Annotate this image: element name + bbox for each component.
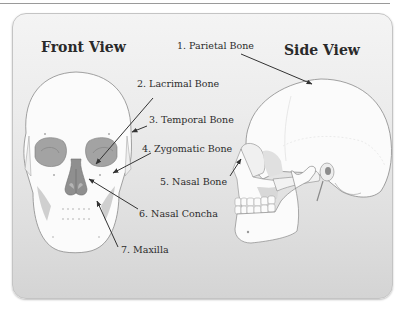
label-nasal-bone: 5. Nasal Bone: [160, 176, 227, 187]
diagram-panel: Front View Side View 1. Parietal Bone 2.…: [12, 13, 393, 299]
front-skull-icon: [24, 72, 132, 253]
label-lacrimal-bone: 2. Lacrimal Bone: [137, 78, 219, 89]
arrow-temporal: [132, 126, 147, 132]
label-temporal-bone: 3. Temporal Bone: [149, 114, 234, 125]
side-skull-icon: [233, 79, 392, 243]
label-parietal-bone: 1. Parietal Bone: [177, 40, 254, 51]
label-zygomatic-bone: 4. Zygomatic Bone: [142, 143, 232, 154]
front-view-title: Front View: [41, 39, 126, 55]
label-maxilla: 7. Maxilla: [121, 244, 169, 255]
top-rule: [0, 3, 390, 4]
side-view-title: Side View: [284, 42, 360, 58]
label-nasal-concha: 6. Nasal Concha: [139, 208, 218, 219]
arrow-parietal: [241, 54, 312, 84]
